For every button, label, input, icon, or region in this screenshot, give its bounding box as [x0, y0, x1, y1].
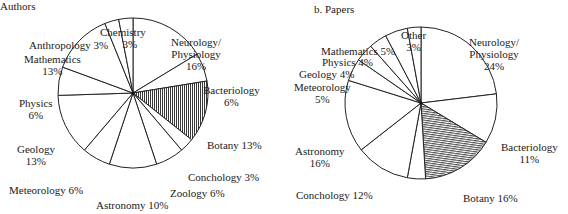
label-neurology-b: Neurology/Physiology24% [469, 36, 519, 72]
label-bacteriology: Bacteriology6% [203, 84, 260, 108]
label-meteorology-b: Meteorology5% [294, 81, 351, 105]
authors-title: Authors [0, 0, 35, 12]
label-meteorology: Meteorology 6% [9, 184, 83, 196]
label-neurology: Neurology/Physiology16% [171, 36, 221, 72]
label-physics: Physics6% [19, 97, 53, 121]
label-zoology: Zoology 6% [170, 187, 225, 199]
label-botany: Botany 13% [207, 139, 262, 151]
label-mathematics: Mathematics13% [24, 53, 81, 77]
label-astronomy: Astronomy 10% [96, 199, 168, 211]
label-geology-b: Geology 4% [299, 68, 354, 80]
label-conchology-b: Conchology 12% [296, 189, 373, 201]
papers-title: b. Papers [314, 3, 354, 15]
label-anthropology: Anthropology 3% [29, 39, 108, 51]
label-astronomy-b: Astronomy16% [295, 145, 345, 169]
pie-charts-canvas [0, 0, 568, 214]
label-geology: Geology13% [17, 143, 55, 167]
label-bacteriology-b: Bacteriology11% [501, 141, 558, 165]
label-physics-b: Physics 4% [322, 56, 373, 68]
label-botany-b: Botany 16% [463, 192, 518, 204]
label-conchology: Conchology 3% [188, 171, 259, 183]
label-other: Other3% [401, 29, 426, 53]
